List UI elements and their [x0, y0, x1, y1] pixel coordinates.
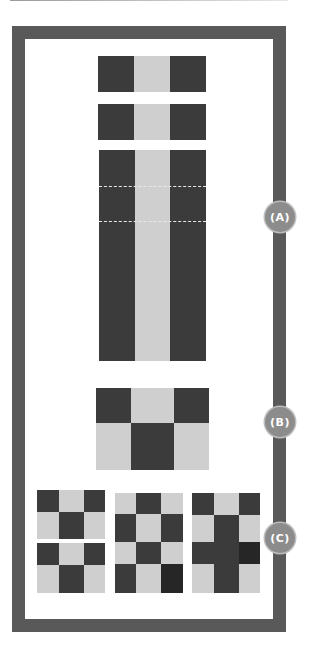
label-badge-a: (A) — [265, 202, 295, 232]
cell — [174, 423, 209, 470]
cell — [131, 423, 174, 470]
cell — [192, 493, 214, 515]
cell — [136, 542, 161, 564]
cell — [96, 388, 131, 423]
cell — [161, 542, 183, 564]
cell — [192, 515, 214, 542]
top-rule — [10, 0, 288, 1]
cell — [59, 490, 84, 512]
cell — [136, 514, 161, 542]
label-badge-b: (B) — [265, 407, 295, 437]
cell — [239, 542, 260, 564]
cell — [214, 542, 239, 564]
cell — [214, 564, 239, 593]
cell — [136, 493, 161, 514]
cell — [161, 514, 183, 542]
cell — [136, 564, 161, 593]
cell — [59, 543, 84, 565]
cell — [170, 150, 206, 361]
cell — [239, 493, 260, 515]
label-badge-c: (C) — [265, 523, 295, 553]
cell — [99, 150, 135, 361]
cell — [98, 56, 134, 92]
grid-c1-bottom — [37, 543, 105, 593]
cell — [115, 564, 136, 593]
cell — [161, 493, 183, 514]
cell — [131, 388, 174, 423]
cell — [161, 564, 183, 593]
block-b — [96, 388, 209, 470]
cell — [115, 514, 136, 542]
cell — [134, 56, 170, 92]
cell — [37, 565, 59, 593]
cell — [59, 512, 84, 539]
cell — [134, 104, 170, 140]
cell — [192, 542, 214, 564]
cell — [37, 543, 59, 565]
cell — [59, 565, 84, 593]
cell — [37, 512, 59, 539]
dashed-line — [99, 186, 206, 187]
cell — [214, 493, 239, 515]
cell — [37, 490, 59, 512]
strip-a2 — [98, 104, 206, 140]
grid-c1-top — [37, 490, 105, 539]
cell — [98, 104, 134, 140]
cell — [214, 515, 239, 542]
cell — [84, 543, 105, 565]
cell — [84, 565, 105, 593]
cell — [135, 150, 170, 361]
cell — [115, 542, 136, 564]
cell — [192, 564, 214, 593]
cell — [96, 423, 131, 470]
cell — [84, 490, 105, 512]
grid-c2 — [115, 493, 183, 593]
cell — [170, 104, 206, 140]
cell — [84, 512, 105, 539]
grid-c3 — [192, 493, 260, 593]
cell — [115, 493, 136, 514]
cell — [239, 564, 260, 593]
tall-strip-a — [99, 150, 206, 361]
cell — [174, 388, 209, 423]
cell — [170, 56, 206, 92]
strip-a1 — [98, 56, 206, 92]
dashed-line — [99, 221, 206, 222]
cell — [239, 515, 260, 542]
